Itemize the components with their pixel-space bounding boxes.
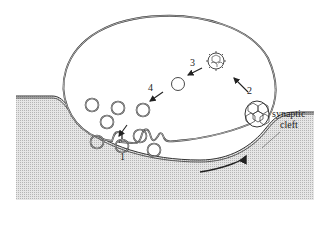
- label-step4: 4: [148, 82, 153, 93]
- coated-vesicle: [206, 51, 226, 71]
- label-synaptic: synaptic: [272, 108, 306, 119]
- presynaptic-terminal: [63, 16, 275, 143]
- label-step2: 2: [247, 85, 252, 96]
- label-step1: 1: [120, 151, 125, 162]
- label-cleft: cleft: [280, 119, 298, 130]
- vesicle-recycling-diagram: 1 2 3 4 synaptic cleft: [0, 0, 328, 225]
- uncoated-vesicle: [172, 78, 185, 91]
- label-step3: 3: [190, 57, 195, 68]
- coated-pit: [245, 101, 269, 127]
